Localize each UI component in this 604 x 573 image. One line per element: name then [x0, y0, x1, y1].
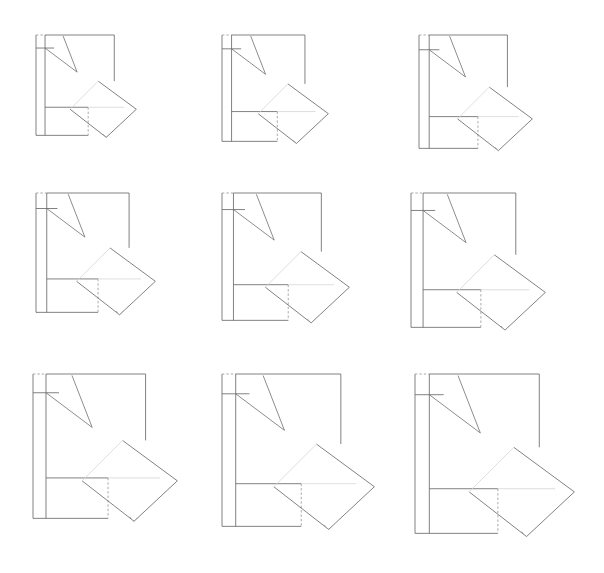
plan-figure-1 — [36, 35, 148, 147]
plan-figure-canvas — [36, 193, 170, 327]
plan-figure-9 — [415, 374, 593, 552]
plan-figure-canvas — [33, 374, 195, 536]
plan-figure-3 — [419, 35, 546, 162]
rotated-square-fill — [457, 255, 546, 330]
figure-sheet — [0, 0, 604, 573]
rotated-square-fill — [77, 248, 156, 315]
plan-figure-5 — [222, 193, 365, 336]
plan-figure-8 — [222, 374, 393, 545]
plan-figure-7 — [33, 374, 195, 536]
rotated-square-fill — [265, 252, 349, 323]
plan-figure-4 — [36, 193, 170, 327]
rotated-square-fill — [82, 440, 177, 521]
plan-figure-canvas — [36, 35, 148, 147]
rotated-square-fill — [469, 447, 574, 536]
plan-figure-6 — [411, 193, 561, 343]
plan-figure-2 — [222, 35, 341, 154]
plan-figure-canvas — [419, 35, 546, 162]
plan-figure-canvas — [222, 35, 341, 154]
rotated-square-fill — [458, 87, 533, 150]
rotated-square-fill — [258, 84, 328, 144]
rotated-square-fill — [274, 444, 375, 529]
diagram-grid — [0, 0, 604, 573]
plan-figure-canvas — [222, 374, 393, 545]
plan-figure-canvas — [415, 374, 593, 552]
plan-figure-canvas — [411, 193, 561, 343]
rotated-square-fill — [70, 81, 136, 137]
plan-figure-canvas — [222, 193, 365, 336]
